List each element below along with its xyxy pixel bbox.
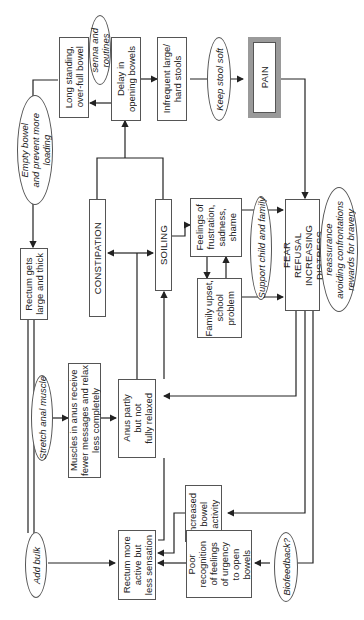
long-standing-label: Long standing, over-full bowel (63, 46, 85, 108)
keep-stool-soft-oval: Keep stool soft (207, 37, 231, 121)
biofeedback-label: Biofeedback? (281, 538, 292, 596)
keep-soft-label: Keep stool soft (214, 48, 225, 111)
empty-bowel-oval: Empty bowel and prevent more loading (17, 95, 53, 205)
support-label: Support child and family (256, 197, 267, 298)
soiling-box: SOILING (155, 199, 172, 291)
reassurance-oval: reassurance avoiding confrontations rewa… (320, 187, 358, 312)
empty-bowel-label: Empty bowel and prevent more loading (19, 113, 52, 187)
biofeedback-oval: Biofeedback? (274, 532, 298, 602)
feelings-box: Feelings of frustration, sadness, shame (190, 198, 242, 257)
add-bulk-oval: Add bulk (25, 532, 47, 598)
family-label: Family upset, school problem (203, 280, 236, 337)
infrequent-stools-box: Infrequent large/ hard stools (157, 37, 187, 121)
muscles-label: Muscles in anus receive fewer messages a… (68, 365, 101, 476)
pain-label: PAIN (259, 66, 270, 88)
anus-partly-relaxed-box: Anus partly but not fully relaxed (118, 379, 156, 458)
senna-label: senna and routines (89, 28, 111, 72)
delay-opening-box: Delay in opening bowels (111, 37, 141, 121)
support-child-family-oval: Support child and family (250, 196, 272, 300)
fear-label: FEAR REFUSAL INCREASING DISTRESS (281, 200, 325, 310)
poor-recognition-box: Poor recognition of feelings of urgency … (186, 530, 252, 598)
rectum-active-label: Rectum more active but less sensation (121, 535, 154, 595)
rectum-active-box: Rectum more active but less sensation (118, 530, 156, 600)
soiling-label: SOILING (158, 225, 169, 265)
poor-recognition-label: Poor recognition of feelings of urgency … (186, 541, 252, 587)
add-bulk-label: Add bulk (31, 547, 42, 584)
family-upset-box: Family upset, school problem (197, 278, 242, 338)
infrequent-label: Infrequent large/ hard stools (161, 44, 183, 113)
stretch-anal-muscle-oval: Stretch anal muscle (31, 375, 53, 461)
delay-label: Delay in opening bowels (115, 46, 137, 112)
stretch-label: Stretch anal muscle (37, 376, 48, 459)
pain-box: PAIN (248, 37, 281, 118)
senna-routines-oval: senna and routines (89, 15, 111, 85)
rectum-large-box: Rectum gets large and thick (20, 248, 48, 320)
feelings-label: Feelings of frustration, sadness, shame (194, 204, 238, 250)
fear-refusal-box: FEAR REFUSAL INCREASING DISTRESS (285, 199, 320, 311)
long-standing-bowel-box: Long standing, over-full bowel (59, 37, 89, 118)
rectum-large-label: Rectum gets large and thick (23, 253, 45, 315)
anus-label: Anus partly but not fully relaxed (121, 393, 154, 444)
increased-label: Increased bowel activity (187, 493, 220, 535)
flowchart: Long standing, over-full bowel senna and… (0, 0, 364, 620)
muscles-anus-box: Muscles in anus receive fewer messages a… (68, 363, 101, 478)
constipation-box: CONSTIPATION (89, 199, 106, 317)
reassurance-label: reassurance avoiding confrontations rewa… (323, 201, 356, 299)
constipation-label: CONSTIPATION (92, 222, 103, 294)
